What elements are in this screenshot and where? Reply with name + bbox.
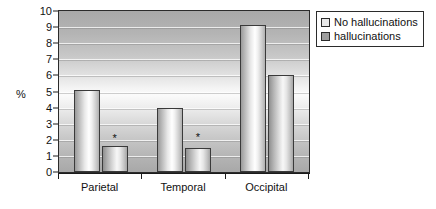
bar-parietal-series0: [74, 90, 100, 172]
y-tick-label: 1: [30, 150, 52, 161]
bar-temporal-series1: [185, 148, 211, 172]
x-axis-separator-tick: [225, 173, 226, 179]
x-axis-line: [58, 173, 310, 174]
bar-temporal-series0: [157, 108, 183, 172]
y-tick-label: 6: [30, 70, 52, 81]
legend-label: No hallucinations: [334, 15, 418, 29]
plot-area: **: [58, 10, 310, 173]
legend-item-hallucinations: hallucinations: [321, 29, 418, 43]
legend: No hallucinations hallucinations: [316, 11, 424, 47]
x-tick-label-parietal: Parietal: [81, 182, 118, 193]
y-tick-label: 9: [30, 22, 52, 33]
bar-parietal-series1: [102, 146, 128, 172]
y-tick-label: 0: [30, 167, 52, 178]
y-axis-label: %: [16, 88, 26, 100]
y-tick-label: 3: [30, 118, 52, 129]
y-tick-label: 10: [30, 6, 52, 17]
x-axis-separator-tick: [141, 173, 142, 179]
x-axis-separator-tick: [58, 173, 59, 179]
x-tick-label-temporal: Temporal: [160, 182, 205, 193]
y-tick-label: 5: [30, 86, 52, 97]
significance-asterisk: *: [113, 133, 117, 144]
y-tick-label: 8: [30, 38, 52, 49]
legend-swatch-icon: [321, 32, 330, 41]
bar-series-container: **: [59, 11, 309, 172]
legend-swatch-icon: [321, 18, 330, 27]
significance-asterisk: *: [196, 132, 200, 143]
bar-chart-figure: % 109876543210 ** ParietalTemporalOccipi…: [0, 0, 436, 209]
legend-label: hallucinations: [334, 29, 401, 43]
legend-item-no-hallucinations: No hallucinations: [321, 15, 418, 29]
y-tick-label: 4: [30, 102, 52, 113]
y-axis-ticks: 109876543210: [30, 10, 58, 173]
bar-occipital-series1: [268, 75, 294, 172]
y-tick-label: 7: [30, 54, 52, 65]
x-tick-label-occipital: Occipital: [245, 182, 287, 193]
bar-occipital-series0: [240, 25, 266, 172]
y-tick-label: 2: [30, 134, 52, 145]
x-axis-separator-tick: [308, 173, 309, 179]
